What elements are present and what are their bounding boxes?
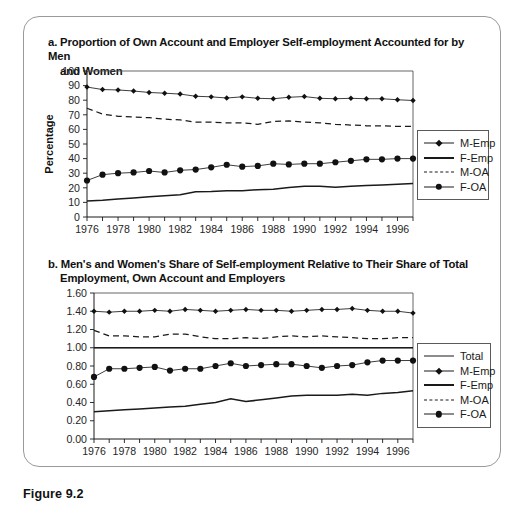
svg-text:1986: 1986 xyxy=(234,445,258,457)
svg-text:0.80: 0.80 xyxy=(66,360,87,372)
legend-swatch-f-oa-icon xyxy=(423,181,455,193)
legend-item-m-oa[interactable]: M-OA xyxy=(423,393,484,408)
svg-text:1982: 1982 xyxy=(173,445,197,457)
legend-swatch-f-oa-icon xyxy=(423,408,455,420)
svg-text:1992: 1992 xyxy=(325,445,349,457)
svg-text:0.20: 0.20 xyxy=(66,414,87,426)
svg-text:1994: 1994 xyxy=(355,223,379,235)
svg-text:1.20: 1.20 xyxy=(66,323,87,335)
svg-text:60: 60 xyxy=(68,123,80,135)
legend-label: F-OA xyxy=(460,408,486,420)
svg-text:1992: 1992 xyxy=(324,223,348,235)
legend-swatch-m-emp-icon xyxy=(423,137,455,149)
svg-text:1976: 1976 xyxy=(75,223,99,235)
svg-text:10: 10 xyxy=(68,196,80,208)
svg-text:1990: 1990 xyxy=(295,445,319,457)
svg-text:1980: 1980 xyxy=(143,445,167,457)
figure-caption: Figure 9.2 xyxy=(23,487,84,501)
svg-text:Percentage: Percentage xyxy=(43,114,55,173)
svg-text:1.40: 1.40 xyxy=(66,305,87,317)
svg-text:50: 50 xyxy=(68,138,80,150)
legend-label: Total xyxy=(460,350,483,362)
legend-label: F-Emp xyxy=(460,152,493,164)
svg-text:1976: 1976 xyxy=(82,445,106,457)
legend-swatch-m-oa-icon xyxy=(423,166,455,178)
svg-text:1994: 1994 xyxy=(356,445,380,457)
svg-text:0.00: 0.00 xyxy=(66,433,87,445)
svg-text:1980: 1980 xyxy=(137,223,161,235)
panel-b-title-line2: Employment, Own Account and Employers xyxy=(48,271,478,285)
svg-text:1.60: 1.60 xyxy=(66,287,87,299)
legend-label: F-OA xyxy=(460,181,486,193)
panel-a-legend: M-EmpF-EmpM-OAF-OA xyxy=(417,130,489,200)
panel-a-title-line1: a. Proportion of Own Account and Employe… xyxy=(48,35,478,64)
svg-text:1978: 1978 xyxy=(113,445,137,457)
svg-text:1982: 1982 xyxy=(168,223,192,235)
svg-text:1.00: 1.00 xyxy=(66,341,87,353)
legend-swatch-f-emp-icon xyxy=(423,379,455,391)
legend-swatch-f-emp-icon xyxy=(423,152,455,164)
svg-text:1990: 1990 xyxy=(293,223,317,235)
svg-text:30: 30 xyxy=(68,167,80,179)
svg-text:20: 20 xyxy=(68,182,80,194)
svg-text:1984: 1984 xyxy=(204,445,228,457)
panel-b: b. Men's and Women's Share of Self-emplo… xyxy=(24,257,502,467)
svg-text:1978: 1978 xyxy=(106,223,130,235)
legend-item-m-emp[interactable]: M-Emp xyxy=(423,136,482,151)
panel-b-title: b. Men's and Women's Share of Self-emplo… xyxy=(48,257,478,286)
panel-b-legend: TotalM-EmpF-EmpM-OAF-OA xyxy=(417,343,491,428)
svg-text:70: 70 xyxy=(68,109,80,121)
svg-text:1988: 1988 xyxy=(264,445,288,457)
legend-swatch-m-emp-icon xyxy=(423,365,455,377)
legend-item-f-oa[interactable]: F-OA xyxy=(423,180,482,195)
svg-text:80: 80 xyxy=(68,94,80,106)
legend-item-f-oa[interactable]: F-OA xyxy=(423,407,484,422)
legend-label: M-Emp xyxy=(460,365,495,377)
panel-a: a. Proportion of Own Account and Employe… xyxy=(24,35,502,251)
svg-text:40: 40 xyxy=(68,152,80,164)
panel-b-title-line1: b. Men's and Women's Share of Self-emplo… xyxy=(48,257,478,271)
legend-label: F-Emp xyxy=(460,379,493,391)
legend-item-m-oa[interactable]: M-OA xyxy=(423,165,482,180)
legend-swatch-total-icon xyxy=(423,350,455,362)
svg-text:100: 100 xyxy=(62,65,80,77)
svg-text:1996: 1996 xyxy=(386,223,410,235)
legend-label: M-OA xyxy=(460,394,489,406)
svg-text:1988: 1988 xyxy=(261,223,285,235)
legend-item-f-emp[interactable]: F-Emp xyxy=(423,378,484,393)
legend-item-total[interactable]: Total xyxy=(423,349,484,364)
svg-text:1984: 1984 xyxy=(199,223,223,235)
legend-item-f-emp[interactable]: F-Emp xyxy=(423,151,482,166)
svg-text:1986: 1986 xyxy=(230,223,254,235)
svg-text:0: 0 xyxy=(74,211,80,223)
legend-label: M-Emp xyxy=(460,137,495,149)
legend-swatch-m-oa-icon xyxy=(423,394,455,406)
svg-text:0.40: 0.40 xyxy=(66,396,87,408)
legend-item-m-emp[interactable]: M-Emp xyxy=(423,364,484,379)
legend-label: M-OA xyxy=(460,166,489,178)
svg-text:90: 90 xyxy=(68,79,80,91)
svg-text:1996: 1996 xyxy=(386,445,410,457)
figure-card: a. Proportion of Own Account and Employe… xyxy=(23,16,501,467)
svg-text:0.60: 0.60 xyxy=(66,378,87,390)
